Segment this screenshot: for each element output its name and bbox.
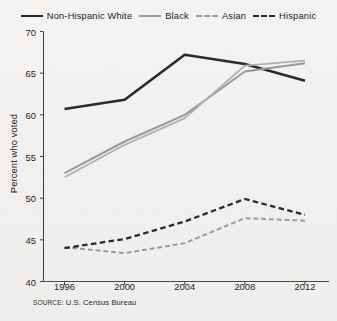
y-axis-tick-label: 45 [16, 234, 36, 245]
source-note: SOURCE: U.S. Census Bureau [33, 298, 136, 307]
source-text: U.S. Census Bureau [64, 298, 137, 307]
chart-container: Non-Hispanic White Black Asian Hispanic … [0, 0, 337, 321]
series-line [65, 61, 305, 178]
chart-svg [0, 0, 337, 321]
series-line [65, 218, 305, 253]
y-axis-title: Percent who voted [8, 94, 19, 214]
y-axis-tick-label: 50 [16, 193, 36, 204]
x-axis-tick-label: 1996 [43, 281, 87, 292]
y-axis-tick-label: 70 [16, 26, 36, 37]
plot-area: 40455055606570 Percent who voted 1996200… [0, 0, 337, 321]
x-axis-tick-labels: 19962000200420082012 [0, 281, 337, 295]
x-axis-tick-label: 2012 [283, 281, 327, 292]
y-axis-tick-label: 55 [16, 151, 36, 162]
x-axis-tick-label: 2000 [103, 281, 147, 292]
x-axis-tick-label: 2004 [163, 281, 207, 292]
x-axis-tick-label: 2008 [223, 281, 267, 292]
source-kicker: SOURCE: [33, 299, 64, 306]
y-axis-tick-label: 65 [16, 68, 36, 79]
y-axis-tick-label: 60 [16, 109, 36, 120]
series-line [65, 199, 305, 248]
